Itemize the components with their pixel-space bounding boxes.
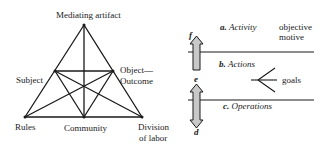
subject-label: Subject — [16, 75, 43, 85]
activity-letter: a. — [220, 22, 227, 32]
division-label-line2: of labor — [139, 133, 167, 143]
double-arrow-icon — [190, 84, 203, 128]
goals-label: goals — [282, 75, 301, 85]
division-label-line1: Division — [138, 122, 169, 132]
operations-level-label: c. Operations — [223, 101, 272, 111]
object-label-line2: Outcome — [120, 76, 153, 86]
mediating-artifact-label: Mediating artifact — [56, 10, 121, 20]
community-label: Community — [64, 123, 107, 133]
arrow-letter-e: e — [194, 74, 198, 84]
actions-level-label: b. Actions — [219, 59, 255, 69]
operations-letter: c. — [223, 101, 229, 111]
goals-fork-icon — [251, 68, 277, 92]
activity-level-label: a. Activity — [220, 22, 256, 32]
actions-letter: b. — [219, 59, 226, 69]
activity-text: Activity — [229, 22, 256, 32]
operations-text: Operations — [232, 101, 273, 111]
actions-text: Actions — [228, 59, 255, 69]
objective-label-line1: objective — [279, 22, 312, 32]
arrow-letter-f: f — [189, 30, 192, 40]
up-arrow-icon — [190, 36, 203, 70]
objective-label-line2: motive — [279, 32, 304, 42]
rules-label: Rules — [15, 122, 36, 132]
object-label-line1: Object— — [120, 65, 153, 75]
arrow-letter-d: d — [194, 127, 199, 137]
